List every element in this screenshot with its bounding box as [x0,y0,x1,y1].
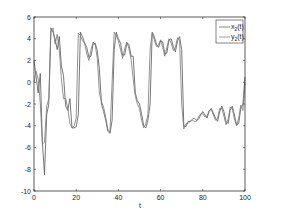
legend: x2(t) y2(t) [216,20,244,43]
y-tick-label: 2 [27,57,31,64]
y-tick-label: 6 [27,14,31,21]
x-tick-label: 40 [115,194,123,201]
series-line-x2t [34,28,245,175]
y-tick-label: -4 [25,122,31,129]
y-tick-label: -10 [21,188,31,195]
x-tick-label: 80 [199,194,207,201]
y-tick-label: 4 [27,35,31,42]
x-tick-label: 20 [72,194,80,201]
series-line-y2t [34,28,245,144]
x-axis-label: t [139,202,141,209]
line-chart: 020406080100 -10-8-6-4-20246 t x2(t) y2(… [0,0,284,222]
y-tick-label: -2 [25,101,31,108]
x-tick-label: 100 [239,194,251,201]
plot-lines [34,28,245,175]
x-axis-ticks: 020406080100 [32,17,251,201]
y-tick-label: 0 [27,79,31,86]
x-tick-label: 0 [32,194,36,201]
y-tick-label: -8 [25,166,31,173]
x-tick-label: 60 [157,194,165,201]
y-tick-label: -6 [25,144,31,151]
